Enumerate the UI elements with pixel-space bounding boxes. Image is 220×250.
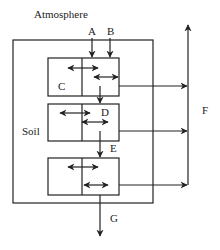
label-f: F bbox=[202, 104, 208, 116]
label-e: E bbox=[110, 142, 117, 154]
label-c: C bbox=[58, 80, 65, 92]
label-b: B bbox=[107, 25, 114, 37]
label-d: D bbox=[101, 106, 109, 118]
label-g: G bbox=[110, 212, 118, 224]
label-a: A bbox=[88, 25, 96, 37]
soil-label: Soil bbox=[22, 125, 40, 137]
compartment-3 bbox=[48, 158, 119, 195]
atmosphere-label: Atmosphere bbox=[34, 8, 88, 20]
soil-atmosphere-diagram: Atmosphere Soil A B C D E F G bbox=[0, 0, 220, 250]
